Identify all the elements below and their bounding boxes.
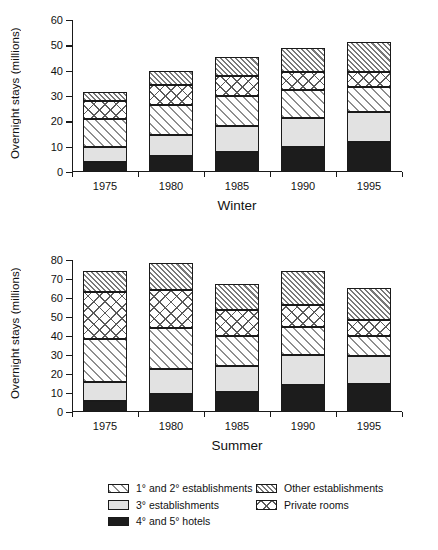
winter-segment-one-two-star[interactable] bbox=[281, 90, 325, 118]
summer-y-tick-label: 10 bbox=[51, 388, 63, 399]
legend-column-left: 1° and 2° establishments3° establishment… bbox=[108, 482, 252, 532]
summer-segment-private-rooms[interactable] bbox=[149, 290, 193, 328]
summer-y-tick bbox=[66, 298, 72, 299]
winter-y-tick-label: 0 bbox=[57, 167, 63, 178]
summer-segment-hotels[interactable] bbox=[83, 401, 127, 412]
winter-segment-hotels[interactable] bbox=[149, 156, 193, 172]
summer-y-tick-label: 60 bbox=[51, 293, 63, 304]
legend-column-right: Other establishmentsPrivate rooms bbox=[256, 482, 383, 515]
winter-y-tick-label: 30 bbox=[51, 91, 63, 102]
summer-x-tick bbox=[270, 412, 271, 417]
winter-segment-one-two-star[interactable] bbox=[347, 87, 391, 112]
summer-segment-three-star[interactable] bbox=[281, 355, 325, 385]
summer-chart-panel: Overnight stays (millions) 0102030405060… bbox=[0, 246, 438, 478]
winter-x-tick bbox=[204, 172, 205, 177]
legend-item-label: Other establishments bbox=[284, 483, 383, 494]
winter-bar-1985[interactable] bbox=[215, 20, 259, 172]
legend-item[interactable]: Other establishments bbox=[256, 482, 383, 495]
summer-bar-1990[interactable] bbox=[281, 260, 325, 412]
legend-item[interactable]: Private rooms bbox=[256, 499, 383, 512]
winter-bar-1980[interactable] bbox=[149, 20, 193, 172]
summer-y-axis bbox=[72, 260, 73, 412]
winter-x-tick bbox=[402, 172, 403, 177]
winter-y-tick bbox=[66, 96, 72, 97]
summer-segment-other-establishments[interactable] bbox=[149, 263, 193, 291]
winter-segment-private-rooms[interactable] bbox=[281, 72, 325, 90]
winter-segment-private-rooms[interactable] bbox=[149, 85, 193, 105]
summer-segment-other-establishments[interactable] bbox=[347, 288, 391, 320]
winter-x-tick-label: 1975 bbox=[93, 180, 117, 192]
diagonal-hatch-wide-swatch bbox=[108, 484, 129, 494]
summer-segment-three-star[interactable] bbox=[149, 369, 193, 394]
winter-bar-1990[interactable] bbox=[281, 20, 325, 172]
winter-y-tick-label: 10 bbox=[51, 141, 63, 152]
winter-segment-one-two-star[interactable] bbox=[215, 96, 259, 126]
winter-segment-other-establishments[interactable] bbox=[281, 48, 325, 72]
winter-bar-1975[interactable] bbox=[83, 20, 127, 172]
winter-segment-hotels[interactable] bbox=[281, 147, 325, 172]
winter-segment-hotels[interactable] bbox=[215, 152, 259, 172]
summer-segment-other-establishments[interactable] bbox=[281, 271, 325, 304]
summer-y-tick bbox=[66, 336, 72, 337]
summer-x-tick bbox=[402, 412, 403, 417]
summer-segment-hotels[interactable] bbox=[281, 385, 325, 412]
summer-y-tick-label: 40 bbox=[51, 331, 63, 342]
summer-bar-1985[interactable] bbox=[215, 260, 259, 412]
winter-bar-1995[interactable] bbox=[347, 20, 391, 172]
black-solid-swatch bbox=[108, 517, 129, 527]
winter-segment-other-establishments[interactable] bbox=[83, 92, 127, 101]
winter-segment-three-star[interactable] bbox=[149, 135, 193, 155]
summer-segment-three-star[interactable] bbox=[215, 366, 259, 392]
summer-segment-private-rooms[interactable] bbox=[281, 305, 325, 328]
chart-page: Overnight stays (millions) 0102030405060… bbox=[0, 0, 438, 550]
summer-segment-three-star[interactable] bbox=[83, 382, 127, 401]
winter-segment-hotels[interactable] bbox=[83, 162, 127, 172]
summer-y-tick bbox=[66, 393, 72, 394]
summer-y-tick-label: 30 bbox=[51, 350, 63, 361]
legend-item-label: Private rooms bbox=[284, 500, 349, 511]
winter-segment-three-star[interactable] bbox=[347, 112, 391, 141]
winter-segment-other-establishments[interactable] bbox=[149, 71, 193, 85]
summer-segment-one-two-star[interactable] bbox=[347, 336, 391, 356]
legend-item[interactable]: 3° establishments bbox=[108, 499, 252, 512]
legend-item[interactable]: 1° and 2° establishments bbox=[108, 482, 252, 495]
winter-y-tick bbox=[66, 45, 72, 46]
winter-y-tick-label: 40 bbox=[51, 65, 63, 76]
summer-segment-other-establishments[interactable] bbox=[215, 284, 259, 311]
winter-y-tick bbox=[66, 71, 72, 72]
winter-segment-other-establishments[interactable] bbox=[215, 57, 259, 76]
winter-y-tick-label: 20 bbox=[51, 116, 63, 127]
summer-segment-hotels[interactable] bbox=[215, 392, 259, 412]
winter-segment-three-star[interactable] bbox=[215, 126, 259, 151]
winter-x-tick bbox=[72, 172, 73, 177]
summer-segment-hotels[interactable] bbox=[149, 394, 193, 412]
winter-segment-one-two-star[interactable] bbox=[149, 105, 193, 135]
winter-segment-hotels[interactable] bbox=[347, 142, 391, 172]
winter-segment-one-two-star[interactable] bbox=[83, 119, 127, 147]
legend-item[interactable]: 4° and 5° hotels bbox=[108, 515, 252, 528]
summer-segment-other-establishments[interactable] bbox=[83, 271, 127, 292]
summer-segment-hotels[interactable] bbox=[347, 384, 391, 412]
winter-segment-private-rooms[interactable] bbox=[347, 72, 391, 87]
winter-segment-private-rooms[interactable] bbox=[83, 101, 127, 119]
winter-segment-other-establishments[interactable] bbox=[347, 42, 391, 72]
summer-bar-1975[interactable] bbox=[83, 260, 127, 412]
summer-segment-private-rooms[interactable] bbox=[347, 320, 391, 336]
summer-segment-private-rooms[interactable] bbox=[215, 310, 259, 336]
legend-item-label: 3° establishments bbox=[136, 500, 219, 511]
summer-x-tick bbox=[138, 412, 139, 417]
summer-segment-one-two-star[interactable] bbox=[83, 339, 127, 382]
winter-segment-three-star[interactable] bbox=[281, 118, 325, 147]
summer-bar-1995[interactable] bbox=[347, 260, 391, 412]
summer-bar-1980[interactable] bbox=[149, 260, 193, 412]
summer-segment-one-two-star[interactable] bbox=[215, 336, 259, 366]
winter-segment-private-rooms[interactable] bbox=[215, 76, 259, 96]
summer-y-tick-label: 70 bbox=[51, 274, 63, 285]
summer-segment-private-rooms[interactable] bbox=[83, 292, 127, 339]
summer-segment-three-star[interactable] bbox=[347, 356, 391, 385]
summer-segment-one-two-star[interactable] bbox=[149, 328, 193, 369]
winter-y-tick bbox=[66, 121, 72, 122]
light-gray-solid-swatch bbox=[108, 500, 129, 510]
summer-segment-one-two-star[interactable] bbox=[281, 327, 325, 355]
winter-segment-three-star[interactable] bbox=[83, 147, 127, 162]
